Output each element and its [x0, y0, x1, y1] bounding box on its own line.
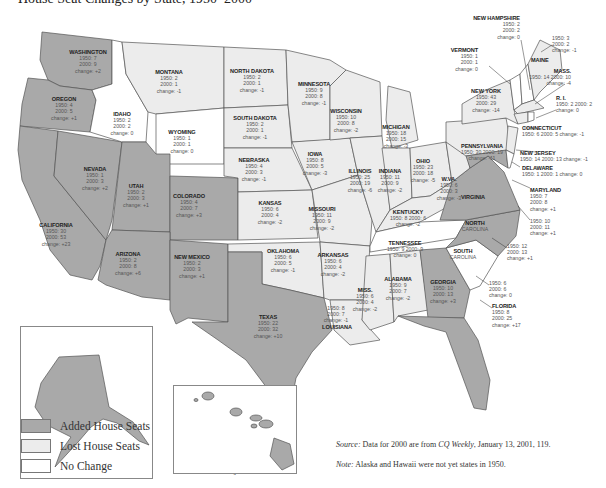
state-label: KANSAS1950: 62000: 4change: -2 — [258, 200, 283, 225]
note-text: Alaska and Hawaii were not yet states in… — [354, 460, 506, 469]
state-value: change: +1 — [507, 255, 533, 261]
state-label: MAINE — [531, 57, 549, 63]
state-label: WYOMING1950: 12000: 1change: 0 — [168, 129, 195, 154]
state-label: COLORADO1950: 42000: 7change: +3 — [173, 193, 205, 218]
state-label: PENNSYLVANIA1950: 30 2000: 19change: -11 — [461, 143, 503, 162]
state-value: 2000: 4 — [353, 299, 378, 305]
state-label: VERMONT1950: 12000: 1change: 0 — [451, 47, 478, 72]
state-label: NEW MEXICO1950: 22000: 3change: +1 — [174, 254, 210, 279]
state-value: change: 0 — [451, 66, 478, 72]
state-value: change: -1 — [239, 176, 270, 182]
state-value: change: +2 — [82, 185, 108, 191]
legend-item-added: Added House Seats — [21, 416, 150, 436]
state-value: 2000: 18 — [411, 170, 436, 176]
legend-label-lost: Lost House Seats — [60, 440, 140, 452]
state-value: CAROLINA — [462, 226, 489, 232]
state-value: change: +23 — [39, 241, 73, 247]
state-label: 1950: 122000: 13change: +1 — [507, 243, 533, 262]
state-value: change: -1 — [552, 47, 577, 53]
state-label: OREGON1950: 42000: 5change: +1 — [51, 96, 77, 121]
source-note: Source: Data for 2000 are from CQ Weekly… — [336, 440, 550, 449]
state-value: 2000: 3 — [123, 195, 149, 201]
state-value: 1950: 6 2000: 5 change: -1 — [522, 131, 584, 137]
source-label: Source: — [336, 440, 361, 449]
state-value: change: 0 — [387, 252, 423, 258]
state-value: change: -2 — [353, 306, 378, 312]
state-label: MICHIGAN1950: 182000: 15change: -3 — [382, 124, 409, 149]
state-label: MASS.1950: 14 2000: 10change: -4 — [529, 68, 571, 87]
state-value: change: 0 — [168, 148, 195, 154]
state-label: ILLINOIS1950: 252000: 19change: -6 — [348, 168, 373, 193]
state-label: FLORIDA1950: 82000: 25change: +17 — [492, 303, 521, 328]
state-value: change: -3 — [382, 143, 409, 149]
state-label: NORTHCAROLINA — [462, 220, 489, 232]
state-label: GEORGIA1950: 102000: 13change: +3 — [430, 279, 456, 304]
legend-label-added: Added House Seats — [60, 420, 150, 432]
state-value: 2000: 8 — [115, 263, 141, 269]
state-label: SOUTHCAROLINA — [450, 248, 477, 260]
state-label: TEXAS1950: 222000: 32change: +10 — [254, 314, 283, 339]
legend-label-none: No Change — [60, 460, 112, 472]
state-value: change: 0 — [489, 292, 512, 298]
state-value: change: +3 — [430, 298, 456, 304]
source-text: Data for 2000 are from — [361, 440, 439, 449]
state-label: OHIO1950: 232000: 18change: -5 — [411, 158, 436, 183]
state-value: change: +1 — [123, 202, 149, 208]
state-label: UTAH1950: 22000: 3change: +1 — [123, 183, 149, 208]
state-label: MONTANA1950: 22000: 1change: -1 — [155, 69, 182, 94]
state-value: change: -1 — [267, 267, 299, 273]
state-value: change: -1 — [233, 134, 276, 140]
state-label: MINNESOTA1950: 92000: 8change: -1 — [298, 81, 330, 106]
state-value: 2000: 19 — [348, 180, 373, 186]
state-value: change: +1 — [51, 115, 77, 121]
state-value: change: -2 — [309, 225, 336, 231]
state-value: change: -2 — [330, 127, 361, 133]
state-value: 2000: 2 — [111, 123, 134, 129]
source-publication: CQ Weekly — [438, 440, 473, 449]
state-value: 2000: 5 — [303, 163, 328, 169]
hawaii-inset — [173, 385, 297, 474]
state-label: ALABAMA1950: 92000: 7change: -2 — [384, 276, 412, 301]
state-value: 2000: 3 — [82, 178, 108, 184]
state-value: change: -2 — [390, 221, 426, 227]
legend-item-none: No Change — [21, 456, 150, 476]
hawaii-shape — [174, 386, 296, 473]
state-label: CALIFORNIA1950: 302000: 53change: +23 — [39, 222, 73, 247]
state-value: 1950: 1 2000: 1 change: 0 — [522, 171, 582, 177]
state-value: change: -1 — [298, 100, 330, 106]
state-rhode-island — [528, 112, 534, 122]
legend-item-lost: Lost House Seats — [21, 436, 150, 456]
state-label: MISSOURI1950: 112000: 9change: -2 — [309, 206, 336, 231]
state-label: LOUISIANA — [322, 324, 352, 330]
state-label: IOWA1950: 82000: 5change: -3 — [303, 151, 328, 176]
state-value: 2000: 3 — [437, 188, 462, 194]
legend: Added House Seats Lost House Seats No Ch… — [21, 416, 150, 476]
state-label: NEW HAMPSHIRE1950: 22000: 2change: 0 — [473, 15, 520, 40]
state-label: KENTUCKY1950: 8 2000: 6change: -2 — [390, 209, 426, 228]
state-value: 2000: 32 — [254, 326, 283, 332]
state-value: change: 0 — [473, 34, 520, 40]
state-name: LOUISIANA — [322, 324, 352, 330]
state-value: change: +6 — [115, 270, 141, 276]
state-label: DELAWARE1950: 1 2000: 1 change: 0 — [522, 165, 582, 177]
state-value: change: -2 — [258, 219, 283, 225]
state-new-mexico — [170, 240, 228, 324]
state-label: W.VA.1950: 62000: 3change: -3 — [437, 176, 462, 201]
state-florida — [398, 316, 490, 410]
state-label: ARKANSAS1950: 62000: 4change: -2 — [318, 252, 349, 277]
state-label: WISCONSIN1950: 102000: 8change: -2 — [330, 108, 361, 133]
state-label: 1950: 102000: 11change: +1 — [530, 218, 556, 237]
state-value: change: -11 — [461, 155, 503, 161]
state-label: OKLAHOMA1950: 62000: 5change: -1 — [267, 248, 299, 273]
state-label: NEBRASKA1950: 42000: 3change: -1 — [239, 157, 270, 182]
state-label: INDIANA1950: 112000: 9change: -2 — [378, 168, 403, 193]
state-value: change: +10 — [254, 333, 283, 339]
state-value: change: -2 — [384, 295, 412, 301]
state-label: MISS.1950: 62000: 4change: -2 — [353, 287, 378, 312]
state-value: change: +1 — [174, 273, 210, 279]
state-label: NEW JERSEY1950: 14 2000: 13 change: -1 — [520, 150, 588, 162]
state-value: change: -5 — [411, 177, 436, 183]
state-value: change: 0 — [111, 130, 134, 136]
alaska-hawaii-note: Note: Alaska and Hawaii were not yet sta… — [336, 460, 506, 469]
state-label: 1950: 62000: 6change: 0 — [489, 280, 512, 299]
